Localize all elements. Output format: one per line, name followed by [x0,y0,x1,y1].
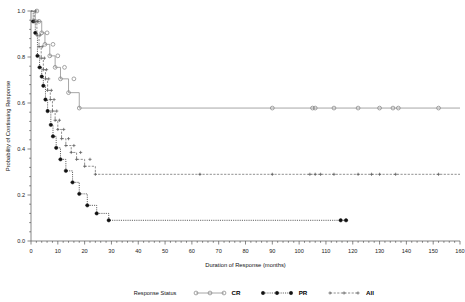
x-tick-label: 130 [375,248,384,254]
series-all [31,9,460,176]
event-marker-all [54,119,57,122]
censor-marker-all [378,173,381,176]
legend-marker-all [356,291,359,294]
y-tick-label: 0.2 [17,192,25,198]
series-group [31,9,460,222]
event-marker-all [56,128,59,131]
event-marker-pr [64,169,67,172]
kaplan-meier-chart: 0102030405060708090100110120130140150160… [0,0,465,302]
x-tick-label: 80 [242,248,248,254]
series-line-cr [31,11,460,108]
censor-marker-cr [45,31,49,35]
x-tick-label: 60 [189,248,195,254]
x-tick-label: 100 [294,248,303,254]
event-marker-pr [55,146,58,149]
censor-marker-all [52,98,55,101]
censor-marker-all [67,137,70,140]
series-pr [31,11,348,222]
censor-marker-all [50,89,53,92]
x-tick-label: 10 [55,248,61,254]
censor-marker-all [370,173,373,176]
censor-marker-all [437,173,440,176]
event-marker-all [42,68,45,71]
event-marker-pr [107,219,110,222]
legend-group: Response StatusCRPRAll [134,289,375,296]
legend-label-pr: PR [299,289,308,296]
event-marker-all [83,165,86,168]
censor-marker-all [314,173,317,176]
legend-marker-all [342,291,345,294]
event-marker-all [46,89,49,92]
x-tick-label: 120 [348,248,357,254]
x-tick-label: 160 [455,248,464,254]
x-tick-label: 40 [135,248,141,254]
censor-marker-all [34,9,37,12]
x-tick-label: 140 [402,248,411,254]
event-marker-all [75,158,78,161]
legend-title: Response Status [134,290,177,296]
event-marker-pr [34,31,37,34]
event-marker-pr [40,75,43,78]
event-marker-pr [95,212,98,215]
x-tick-label: 50 [162,248,168,254]
censor-marker-all [45,68,48,71]
event-marker-all [70,151,73,154]
event-marker-pr [78,192,81,195]
y-tick-label: 0.8 [17,54,25,60]
event-marker-all [37,45,40,48]
chart-svg: 0102030405060708090100110120130140150160… [0,0,465,302]
censor-marker-all [332,173,335,176]
series-cr [31,9,460,110]
event-marker-all [51,109,54,112]
legend-marker-pr [289,291,292,294]
x-axis-title: Duration of Response (months) [205,262,286,268]
censor-marker-all [357,173,360,176]
event-marker-all [94,173,97,176]
event-marker-pr [42,84,45,87]
x-tick-label: 110 [321,248,330,254]
y-tick-label: 0.4 [17,146,25,152]
x-tick-label: 70 [216,248,222,254]
censor-marker-cr [63,65,67,69]
event-marker-all [44,77,47,80]
censor-marker-pr [344,219,347,222]
event-marker-all [40,57,43,60]
axes-group [28,11,461,245]
event-marker-all [64,144,67,147]
censor-marker-cr [72,77,76,81]
y-axis-title: Probability of Continuing Response [5,81,11,172]
censor-marker-all [72,144,75,147]
event-marker-pr [46,109,49,112]
axis-labels-group: 0102030405060708090100110120130140150160… [5,8,465,268]
event-marker-all [60,137,63,140]
censor-marker-all [62,128,65,131]
censor-marker-cr [51,42,55,46]
y-tick-label: 0.0 [17,238,25,244]
legend-marker-all [328,291,331,294]
y-tick-label: 0.6 [17,100,25,106]
series-line-pr [31,11,345,220]
legend-label-cr: CR [232,289,241,296]
event-marker-pr [44,98,47,101]
event-marker-pr [38,66,41,69]
event-marker-pr [36,54,39,57]
censor-marker-all [47,77,50,80]
event-marker-pr [71,181,74,184]
legend-marker-pr [275,291,278,294]
y-tick-label: 1.0 [17,8,25,14]
event-marker-pr [59,158,62,161]
censor-marker-all [58,119,61,122]
censor-marker-all [319,173,322,176]
x-tick-label: 30 [108,248,114,254]
censor-marker-all [198,173,201,176]
x-tick-label: 0 [29,248,32,254]
x-tick-label: 90 [269,248,275,254]
censor-marker-all [308,173,311,176]
event-marker-pr [49,123,52,126]
x-tick-label: 20 [82,248,88,254]
legend-marker-pr [261,291,264,294]
censor-marker-all [79,151,82,154]
series-line-all [31,11,460,174]
censor-marker-all [271,173,274,176]
event-marker-pr [86,204,89,207]
